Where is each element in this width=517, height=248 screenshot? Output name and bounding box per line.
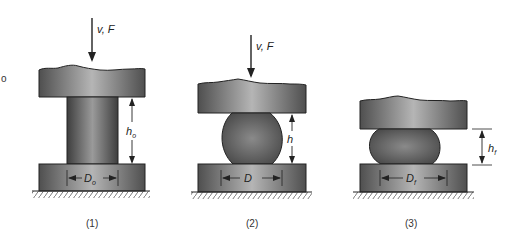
bottom-die-1	[39, 164, 145, 191]
height-label-3: hf	[488, 142, 497, 156]
ground-hatch-2	[191, 192, 312, 199]
height-label-2: h	[287, 133, 293, 145]
stage-3: hf Df (3)	[353, 96, 497, 229]
workpiece-barrel-2	[222, 113, 282, 164]
caption-1: (1)	[86, 218, 98, 229]
ground-hatch-1	[32, 191, 150, 198]
top-die-2	[198, 79, 306, 113]
caption-2: (2)	[246, 218, 258, 229]
caption-3: (3)	[405, 218, 417, 229]
diameter-label-2: D	[244, 172, 252, 184]
workpiece-flattened-barrel-3	[369, 129, 440, 164]
bottom-die-2	[198, 164, 306, 192]
top-die-1	[39, 65, 145, 97]
force-arrow-1	[88, 18, 96, 62]
top-die-3	[360, 96, 467, 129]
workpiece-cylinder-1	[67, 97, 118, 164]
stray-mark: o	[1, 73, 7, 84]
upsetting-diagram: o v, F ho	[0, 0, 517, 248]
force-label-1: v, F	[97, 23, 116, 35]
stage-2: v, F h D (2)	[191, 35, 312, 229]
stage-1: v, F ho Do (1)	[32, 18, 150, 229]
ground-hatch-3	[353, 192, 474, 199]
force-label-2: v, F	[256, 40, 275, 52]
force-arrow-2	[247, 35, 255, 78]
